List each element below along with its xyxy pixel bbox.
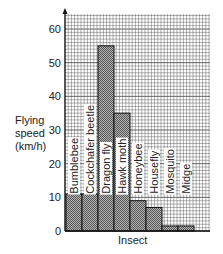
- bar: [162, 226, 178, 231]
- bar-label: Honeybee: [132, 143, 144, 193]
- bar-label: Housefly: [148, 150, 160, 193]
- bar: [178, 226, 194, 231]
- bar: [66, 194, 82, 231]
- y-axis-arrow-icon: [63, 8, 68, 14]
- bar-label: Hawk moth: [116, 139, 128, 194]
- bar: [146, 207, 162, 231]
- bar-label: Midge: [180, 164, 192, 194]
- bar-label: Mosquito: [164, 149, 176, 194]
- bar-chart: BumblebeeCockchafer beetleDragon flyHawk…: [0, 0, 223, 254]
- bar-label: Cockchafer beetle: [84, 105, 96, 194]
- bar: [130, 201, 146, 231]
- x-axis-label: Insect: [118, 234, 147, 246]
- bar-label: Bumblebee: [68, 138, 80, 194]
- bar: [82, 194, 98, 231]
- bar-label: Dragon fly: [100, 143, 112, 194]
- bar: [98, 46, 114, 231]
